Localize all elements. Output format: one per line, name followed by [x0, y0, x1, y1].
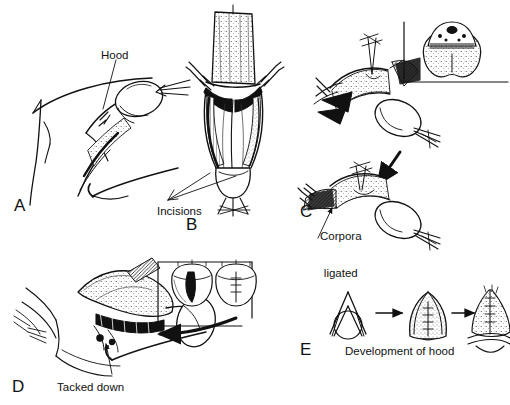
panel-e-caption-development-of-hood: Development of hood: [345, 345, 454, 357]
panel-c-upper-illustration: [314, 22, 508, 148]
panel-d-illustration: [14, 258, 256, 376]
panel-c-caption-line1: Corpora: [320, 230, 362, 242]
glans-inset-closed: [216, 260, 257, 306]
panel-letter-c: C: [300, 203, 313, 221]
panel-e-stage-3: [468, 285, 510, 352]
panel-letter-d: D: [12, 378, 25, 396]
panel-letter-a: A: [14, 197, 26, 215]
panel-letter-e: E: [300, 341, 312, 359]
panel-a-caption-hood: Hood: [101, 49, 129, 61]
surgical-figure-plate: A Hood B Incisions C Corpora ligated D T…: [0, 0, 510, 405]
panel-c-caption-line2: ligated: [320, 267, 362, 279]
panel-d-caption-tacked-down: Tacked down: [57, 381, 124, 393]
panel-c-caption-corpora-ligated: Corpora ligated: [320, 205, 362, 304]
panel-b-illustration: [168, 5, 284, 216]
panel-b-caption-incisions: Incisions: [157, 205, 202, 217]
cross-section-inset: [423, 22, 480, 77]
panel-a-illustration: [30, 60, 190, 205]
glans-inset-open: [172, 260, 213, 306]
panel-e-stage-2: [410, 292, 447, 340]
panel-letter-b: B: [186, 216, 198, 234]
